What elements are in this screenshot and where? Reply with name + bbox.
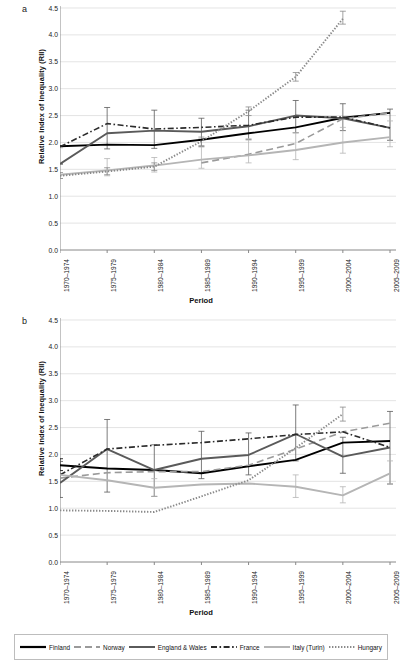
x-tick-label: 1980–1984 xyxy=(157,571,164,604)
x-tick-label: 1980–1984 xyxy=(157,259,164,292)
x-tick-label: 2000–2004 xyxy=(345,259,352,292)
panel-b-x-axis-title: Period xyxy=(0,608,402,617)
error-bar xyxy=(293,73,299,82)
legend-item-finland: Finland xyxy=(20,643,70,651)
x-tick-label: 1995–1999 xyxy=(298,571,305,604)
figure-rii-trends: a Relative Index of Inequality (RII) 4.5… xyxy=(0,0,402,667)
y-tick-label: 1.5 xyxy=(36,478,58,485)
y-tick-label: 2.5 xyxy=(36,424,58,431)
panel-b-x-tick-labels: 1970–19741975–19791980–19841985–19891990… xyxy=(60,562,398,610)
y-tick-label: 3.0 xyxy=(36,85,58,92)
x-tick-label: 1985–1989 xyxy=(204,571,211,604)
x-tick-label: 1995–1999 xyxy=(298,259,305,292)
chart-legend: FinlandNorwayEngland & WalesFranceItaly … xyxy=(14,634,388,660)
x-tick-label: 1990–1994 xyxy=(251,571,258,604)
x-tick-label: 1970–1974 xyxy=(63,571,70,604)
legend-label: Italy (Turin) xyxy=(293,644,325,651)
y-tick-label: 0.0 xyxy=(36,559,58,566)
y-tick-label: 1.0 xyxy=(36,505,58,512)
solid-black-line-swatch xyxy=(20,643,46,651)
dotted-gray-line-swatch xyxy=(329,643,355,651)
error-bar xyxy=(293,133,299,160)
panel-a-y-tick-labels: 4.54.03.53.02.52.01.51.00.50.0 xyxy=(32,0,58,258)
y-tick-label: 1.0 xyxy=(36,193,58,200)
panel-b: b Relative Index of Inequality (RII) 4.5… xyxy=(0,312,402,622)
x-tick-label: 1975–1979 xyxy=(110,571,117,604)
legend-item-england-wales: England & Wales xyxy=(129,643,207,651)
y-tick-label: 2.0 xyxy=(36,139,58,146)
solid-light-gray-line-swatch xyxy=(264,643,290,651)
error-bar xyxy=(387,121,393,147)
y-tick-label: 2.5 xyxy=(36,112,58,119)
x-tick-label: 2000–2004 xyxy=(345,571,352,604)
panel-b-svg xyxy=(60,312,398,570)
legend-label: Norway xyxy=(103,644,125,651)
error-bar xyxy=(340,127,346,153)
y-tick-label: 3.5 xyxy=(36,58,58,65)
dashdot-black-line-swatch xyxy=(211,643,237,651)
legend-item-france: France xyxy=(211,643,260,651)
x-tick-label: 2005–2009 xyxy=(393,571,400,604)
x-tick-label: 1985–1989 xyxy=(204,259,211,292)
panel-a-svg xyxy=(60,0,398,258)
x-tick-label: 1990–1994 xyxy=(251,259,258,292)
panel-b-y-tick-labels: 4.54.03.53.02.52.01.51.00.50.0 xyxy=(32,312,58,570)
error-bar xyxy=(340,407,346,421)
y-tick-label: 4.0 xyxy=(36,31,58,38)
y-tick-label: 3.5 xyxy=(36,370,58,377)
series-line-england-wales xyxy=(60,434,390,483)
legend-item-norway: Norway xyxy=(74,643,125,651)
legend-label: England & Wales xyxy=(158,644,207,651)
legend-label: Finland xyxy=(49,644,70,651)
y-tick-label: 1.5 xyxy=(36,166,58,173)
x-tick-label: 1970–1974 xyxy=(63,259,70,292)
legend-label: France xyxy=(240,644,260,651)
legend-label: Hungary xyxy=(358,644,382,651)
panel-b-canvas xyxy=(60,312,398,570)
y-tick-label: 4.0 xyxy=(36,343,58,350)
panel-a-x-axis-title: Period xyxy=(0,296,402,305)
solid-dark-gray-line-swatch xyxy=(129,643,155,651)
error-bar xyxy=(293,405,299,461)
y-tick-label: 3.0 xyxy=(36,397,58,404)
panel-a: a Relative Index of Inequality (RII) 4.5… xyxy=(0,0,402,310)
y-tick-label: 4.5 xyxy=(36,317,58,324)
panel-a-canvas xyxy=(60,0,398,258)
panel-a-x-tick-labels: 1970–19741975–19791980–19841985–19891990… xyxy=(60,250,398,298)
panel-a-plot: Relative Index of Inequality (RII) 4.54.… xyxy=(0,0,402,258)
x-tick-label: 2005–2009 xyxy=(393,259,400,292)
panel-b-plot: Relative Index of Inequality (RII) 4.54.… xyxy=(0,312,402,570)
error-bar xyxy=(387,461,393,484)
y-tick-label: 0.0 xyxy=(36,247,58,254)
y-tick-label: 0.5 xyxy=(36,220,58,227)
y-tick-label: 2.0 xyxy=(36,451,58,458)
y-tick-label: 4.5 xyxy=(36,5,58,12)
y-tick-label: 0.5 xyxy=(36,532,58,539)
legend-item-italy-turin: Italy (Turin) xyxy=(264,643,325,651)
x-tick-label: 1975–1979 xyxy=(110,259,117,292)
legend-item-hungary: Hungary xyxy=(329,643,382,651)
dashed-gray-line-swatch xyxy=(74,643,100,651)
